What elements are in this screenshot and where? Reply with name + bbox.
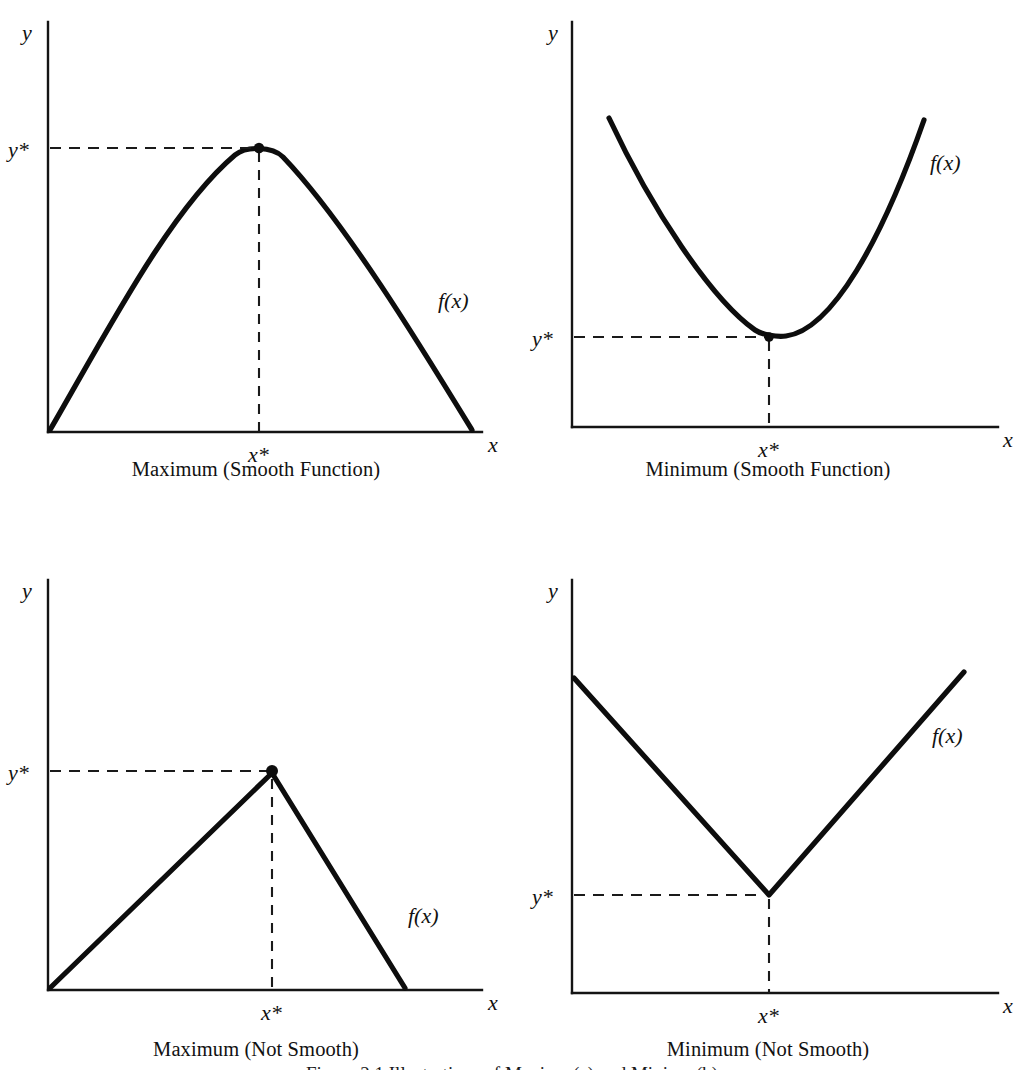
figure-sheet: y y* x* x f(x) y y* x* x f(x) bbox=[0, 0, 1024, 1070]
y-star-label: y* bbox=[530, 326, 553, 351]
x-axis-label: x bbox=[1002, 427, 1013, 452]
panel-minimum-smooth: y y* x* x f(x) bbox=[512, 0, 1024, 535]
function-label: f(x) bbox=[932, 723, 963, 748]
figure-source-caption: Figure 2.1 Illustrations of Maxima (a) a… bbox=[0, 1063, 1024, 1070]
x-axis-label: x bbox=[487, 990, 498, 1015]
y-axis-label: y bbox=[20, 578, 32, 603]
x-axis-label: x bbox=[1002, 993, 1013, 1018]
optimum-point-marker bbox=[254, 143, 264, 153]
caption-maximum-smooth: Maximum (Smooth Function) bbox=[0, 458, 512, 481]
function-curve bbox=[50, 773, 405, 988]
optimum-point-marker bbox=[764, 332, 774, 342]
panel-maximum-smooth: y y* x* x f(x) bbox=[0, 0, 512, 535]
x-star-label: x* bbox=[757, 1003, 779, 1028]
y-star-label: y* bbox=[6, 137, 29, 162]
function-label: f(x) bbox=[438, 288, 469, 313]
y-axis-label: y bbox=[20, 20, 32, 45]
y-star-label: y* bbox=[530, 884, 553, 909]
function-label: f(x) bbox=[408, 903, 439, 928]
function-curve bbox=[574, 672, 964, 895]
panel-maximum-not-smooth: y y* x* x f(x) bbox=[0, 535, 512, 1070]
y-axis-label: y bbox=[546, 20, 558, 45]
x-star-label: x* bbox=[260, 1000, 282, 1025]
function-label: f(x) bbox=[930, 150, 961, 175]
caption-minimum-smooth: Minimum (Smooth Function) bbox=[512, 458, 1024, 481]
function-curve bbox=[50, 148, 472, 430]
panel-minimum-not-smooth: y y* x* x f(x) bbox=[512, 535, 1024, 1070]
y-axis-label: y bbox=[546, 578, 558, 603]
y-star-label: y* bbox=[6, 760, 29, 785]
caption-maximum-not-smooth: Maximum (Not Smooth) bbox=[0, 1038, 512, 1061]
x-axis-label: x bbox=[487, 432, 498, 457]
optimum-point-marker bbox=[266, 765, 278, 777]
caption-minimum-not-smooth: Minimum (Not Smooth) bbox=[512, 1038, 1024, 1061]
function-curve bbox=[609, 118, 924, 336]
